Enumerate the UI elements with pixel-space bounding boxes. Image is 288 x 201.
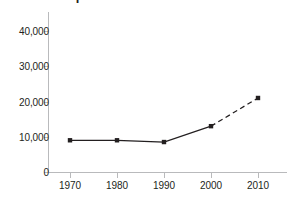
series-line-dashed xyxy=(211,98,258,126)
data-point-2000 xyxy=(209,124,213,128)
data-point-2010 xyxy=(256,96,260,100)
chart-container: Chinese Population 0 10,000 20,000 30,00… xyxy=(0,0,288,201)
series-line-solid xyxy=(70,126,211,142)
data-series-layer xyxy=(0,0,288,201)
data-point-1990 xyxy=(162,140,166,144)
plot-area: 0 10,000 20,000 30,000 40,000 1970 1980 … xyxy=(0,0,288,201)
data-point-1980 xyxy=(115,138,119,142)
series-markers xyxy=(68,96,260,144)
data-point-1970 xyxy=(68,138,72,142)
